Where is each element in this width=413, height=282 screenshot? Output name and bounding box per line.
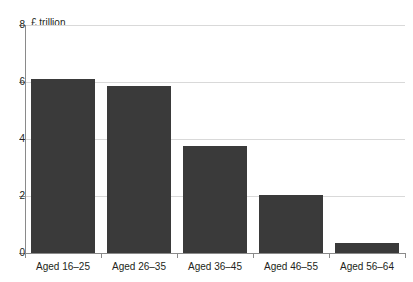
x-tick-mark xyxy=(405,253,406,258)
x-axis-label: Aged 46–55 xyxy=(249,261,333,273)
bar xyxy=(107,86,171,253)
gridline xyxy=(25,25,405,26)
y-tick-label: 2 xyxy=(11,191,25,201)
bar xyxy=(183,146,247,253)
x-axis-label: Aged 36–45 xyxy=(173,261,257,273)
bar xyxy=(259,195,323,253)
y-tick-label: 8 xyxy=(11,20,25,30)
y-tick-label: 6 xyxy=(11,77,25,87)
bar xyxy=(31,79,95,253)
bar-chart: £ trillion 02468 Aged 16–25Aged 26–35Age… xyxy=(0,0,413,282)
x-axis-label: Aged 56–64 xyxy=(325,261,409,273)
x-axis-label: Aged 16–25 xyxy=(21,261,105,273)
x-axis-label: Aged 26–35 xyxy=(97,261,181,273)
y-tick-label: 0 xyxy=(11,248,25,258)
bar xyxy=(335,243,399,253)
y-tick-label: 4 xyxy=(11,134,25,144)
y-axis-title: £ trillion xyxy=(31,17,65,28)
plot-area: £ trillion 02468 Aged 16–25Aged 26–35Age… xyxy=(0,0,413,282)
y-axis-line xyxy=(25,25,26,254)
x-axis-line xyxy=(25,253,405,254)
